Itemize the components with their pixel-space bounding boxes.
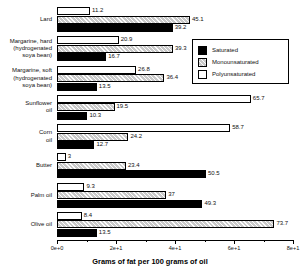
bar-value-label: 65.7 — [251, 94, 265, 102]
bar-row: 24.2 — [57, 133, 293, 141]
bar-value-label: 39.3 — [173, 44, 187, 52]
x-tick-major — [293, 240, 294, 244]
bar-mono — [57, 133, 128, 141]
x-tick-minor — [146, 240, 147, 242]
bar-value-label: 9.3 — [84, 182, 94, 190]
bar-sat — [57, 24, 173, 32]
bar-value-label: 16.7 — [106, 52, 120, 60]
bar-row: 65.7 — [57, 95, 293, 103]
category-label: Butter — [0, 162, 52, 169]
x-tick-label: 0e+0 — [51, 245, 64, 252]
bar-mono — [57, 162, 126, 170]
bar-row: 39.2 — [57, 24, 293, 32]
fat-composition-bar-chart: Lard11.245.139.2Margarine, hard (hydroge… — [0, 0, 300, 276]
legend-label-monounsaturated: Monounsaturated — [212, 58, 259, 67]
bar-value-label: 3 — [66, 152, 71, 160]
bar-value-label: 13.5 — [97, 228, 111, 236]
chart-legend: Saturated Monounsaturated Polyunsaturate… — [192, 39, 289, 84]
x-tick-major — [175, 240, 176, 244]
bar-row: 13.5 — [57, 229, 293, 237]
bar-row: 10.3 — [57, 112, 293, 120]
legend-item-polyunsaturated: Polyunsaturated — [198, 68, 283, 80]
bar-mono — [57, 220, 274, 228]
bar-poly — [57, 124, 230, 132]
bar-sat — [57, 170, 206, 178]
x-axis-title: Grams of fat per 100 grams of oil — [0, 257, 300, 266]
category-label: Margarine, hard (hydrogenated soya bean) — [0, 38, 52, 60]
bar-sat — [57, 83, 97, 91]
bar-value-label: 8.4 — [82, 211, 92, 219]
bar-value-label: 23.4 — [126, 161, 140, 169]
x-tick-major — [116, 240, 117, 244]
bar-value-label: 50.5 — [206, 169, 220, 177]
bar-poly — [57, 212, 82, 220]
legend-label-polyunsaturated: Polyunsaturated — [212, 70, 255, 79]
x-tick-major — [57, 240, 58, 244]
bar-value-label: 26.8 — [136, 65, 150, 73]
legend-swatch-saturated-icon — [198, 46, 207, 55]
bar-poly — [57, 66, 136, 74]
bar-value-label: 37 — [166, 190, 175, 198]
bar-row: 11.2 — [57, 7, 293, 15]
bar-poly — [57, 95, 251, 103]
bar-value-label: 45.1 — [190, 15, 204, 23]
bar-row: 8.4 — [57, 212, 293, 220]
bar-poly — [57, 183, 84, 191]
x-tick-minor — [87, 240, 88, 242]
bar-poly — [57, 153, 66, 161]
legend-item-saturated: Saturated — [198, 44, 283, 56]
bar-sat — [57, 229, 97, 237]
bar-poly — [57, 7, 90, 15]
bar-value-label: 73.7 — [274, 219, 288, 227]
bar-value-label: 39.2 — [173, 23, 187, 31]
bar-sat — [57, 112, 87, 120]
bar-row: 73.7 — [57, 220, 293, 228]
legend-label-saturated: Saturated — [212, 46, 238, 55]
bar-row: 49.3 — [57, 200, 293, 208]
bar-sat — [57, 53, 106, 61]
x-tick-major — [234, 240, 235, 244]
bar-value-label: 24.2 — [128, 132, 142, 140]
bar-sat — [57, 200, 202, 208]
x-tick-minor — [264, 240, 265, 242]
bar-value-label: 20.9 — [119, 35, 133, 43]
bar-mono — [57, 191, 166, 199]
legend-swatch-monounsaturated-icon — [198, 58, 207, 67]
legend-item-monounsaturated: Monounsaturated — [198, 56, 283, 68]
category-label: Corn oil — [0, 129, 52, 143]
x-tick-label: 6e+1 — [228, 245, 241, 252]
bar-row: 37 — [57, 191, 293, 199]
bar-poly — [57, 36, 119, 44]
bar-sat — [57, 141, 94, 149]
bar-mono — [57, 103, 115, 111]
bar-row: 12.7 — [57, 141, 293, 149]
bar-mono — [57, 16, 190, 24]
x-tick-label: 2e+1 — [110, 245, 123, 252]
bar-value-label: 36.4 — [164, 73, 178, 81]
category-label: Sunflower oil — [0, 100, 52, 114]
bar-value-label: 58.7 — [230, 123, 244, 131]
category-label: Palm oil — [0, 192, 52, 199]
bar-row: 9.3 — [57, 183, 293, 191]
bar-value-label: 13.5 — [97, 82, 111, 90]
bar-row: 58.7 — [57, 124, 293, 132]
bar-row: 3 — [57, 153, 293, 161]
x-tick-minor — [205, 240, 206, 242]
bar-value-label: 12.7 — [94, 140, 108, 148]
category-label: Lard — [0, 16, 52, 23]
category-label: Olive oil — [0, 221, 52, 228]
legend-swatch-polyunsaturated-icon — [198, 70, 207, 79]
x-tick-label: 4e+1 — [169, 245, 182, 252]
bar-value-label: 11.2 — [90, 6, 103, 14]
bar-value-label: 49.3 — [202, 199, 216, 207]
x-tick-label: 8e+1 — [287, 245, 300, 252]
bar-row: 50.5 — [57, 170, 293, 178]
bar-mono — [57, 74, 164, 82]
bar-value-label: 19.5 — [115, 102, 129, 110]
bar-row: 23.4 — [57, 162, 293, 170]
bar-value-label: 10.3 — [87, 111, 101, 119]
category-label: Margarine, soft (hydrogenated soya bean) — [0, 67, 52, 89]
